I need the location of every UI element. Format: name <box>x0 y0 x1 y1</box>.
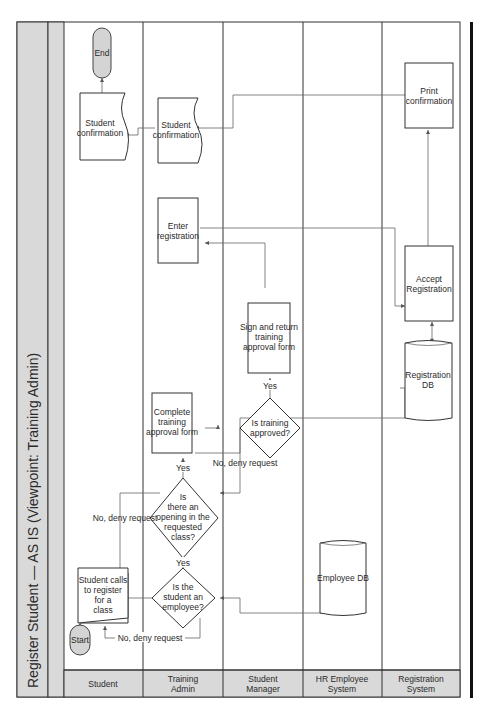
svg-text:Training: Training <box>168 674 199 684</box>
svg-text:confirmation: confirmation <box>153 130 200 140</box>
svg-text:training: training <box>255 332 283 342</box>
edge-label-no-deny-approved: No, deny request <box>213 458 278 468</box>
student-calls-node: Student calls to register for a class <box>78 568 128 623</box>
svg-text:there an: there an <box>167 502 198 512</box>
svg-text:Yes: Yes <box>176 463 190 473</box>
svg-text:Complete: Complete <box>154 407 191 417</box>
svg-text:Student: Student <box>85 118 115 128</box>
sign-return-node: Sign and return training approval form <box>240 303 298 373</box>
svg-text:Employee DB: Employee DB <box>317 573 369 583</box>
edge-label-yes-employee: Yes <box>175 557 191 568</box>
svg-text:End: End <box>94 48 109 58</box>
svg-text:No, deny request: No, deny request <box>213 458 278 468</box>
diagram-title: Register Student — AS IS (Viewpoint: Tra… <box>25 353 41 688</box>
start-terminator: Start <box>70 625 90 655</box>
svg-text:confirmation: confirmation <box>77 128 124 138</box>
svg-text:for a: for a <box>94 595 111 605</box>
svg-text:Student: Student <box>248 674 278 684</box>
svg-text:student an: student an <box>163 592 203 602</box>
svg-text:Start: Start <box>71 635 90 645</box>
svg-text:No, deny request: No, deny request <box>93 513 158 523</box>
svg-text:Sign and return: Sign and return <box>240 322 298 332</box>
print-confirmation-node: Print confirmation <box>405 63 453 128</box>
svg-text:Yes: Yes <box>263 381 277 391</box>
svg-text:Admin: Admin <box>171 684 195 694</box>
svg-text:employee?: employee? <box>162 602 204 612</box>
lane-student: Student <box>88 679 118 689</box>
edge-label-no-deny-employee: No, deny request <box>115 632 185 643</box>
svg-text:approval form: approval form <box>146 427 198 437</box>
svg-text:confirmation: confirmation <box>406 96 453 106</box>
svg-text:approved?: approved? <box>250 428 290 438</box>
registration-db: Registration DB <box>405 341 452 421</box>
svg-text:Student calls: Student calls <box>79 575 128 585</box>
end-terminator: End <box>93 28 111 78</box>
edge-label-no-deny-opening: No, deny request <box>93 513 158 523</box>
svg-text:Is: Is <box>180 492 187 502</box>
svg-text:Registration: Registration <box>398 674 444 684</box>
svg-text:HR Employee: HR Employee <box>316 674 369 684</box>
svg-text:approval form: approval form <box>243 342 295 352</box>
svg-text:Student: Student <box>161 120 191 130</box>
svg-text:Is the: Is the <box>173 582 194 592</box>
enter-registration-node: Enter registration <box>157 198 199 263</box>
employee-db: Employee DB <box>317 541 369 616</box>
svg-text:System: System <box>328 684 356 694</box>
svg-text:requested: requested <box>164 522 202 532</box>
lane-training-admin: Training Admin <box>168 674 199 694</box>
complete-form-node: Complete training approval form <box>146 393 198 453</box>
lane-student-manager: Student Manager <box>246 674 280 694</box>
svg-text:class: class <box>93 605 112 615</box>
svg-text:Registration: Registration <box>406 284 452 294</box>
svg-text:Manager: Manager <box>246 684 280 694</box>
svg-text:DB: DB <box>422 380 434 390</box>
student-confirmation-student: Student confirmation <box>77 93 129 160</box>
svg-text:Is training: Is training <box>252 418 289 428</box>
svg-text:Registration: Registration <box>405 370 451 380</box>
svg-text:Accept: Accept <box>416 274 443 284</box>
swimlane-diagram: Register Student — AS IS (Viewpoint: Tra… <box>0 0 483 718</box>
svg-text:Enter: Enter <box>168 221 188 231</box>
svg-text:Print: Print <box>420 86 438 96</box>
svg-text:training: training <box>158 417 186 427</box>
header-strip <box>48 22 64 697</box>
svg-text:class?: class? <box>171 532 195 542</box>
edge-label-yes-opening: Yes <box>175 462 191 473</box>
accept-registration-node: Accept Registration <box>405 246 453 321</box>
svg-text:System: System <box>407 684 435 694</box>
edge-label-yes-approved: Yes <box>262 380 278 391</box>
student-confirmation-admin: Student confirmation <box>153 98 202 163</box>
svg-text:Student: Student <box>88 679 118 689</box>
svg-text:to register: to register <box>84 585 122 595</box>
svg-text:opening in the: opening in the <box>156 512 210 522</box>
svg-text:No, deny request: No, deny request <box>118 633 183 643</box>
svg-text:Yes: Yes <box>176 558 190 568</box>
page-edge-rule <box>470 22 473 698</box>
svg-text:registration: registration <box>157 231 199 241</box>
